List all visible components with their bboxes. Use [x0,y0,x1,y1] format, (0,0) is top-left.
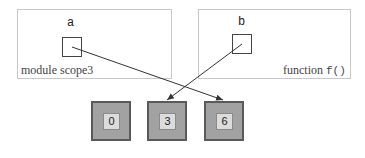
arrow-a-to-6 [72,47,223,100]
arrow-b-to-3 [167,44,242,100]
reference-arrows [0,0,365,158]
